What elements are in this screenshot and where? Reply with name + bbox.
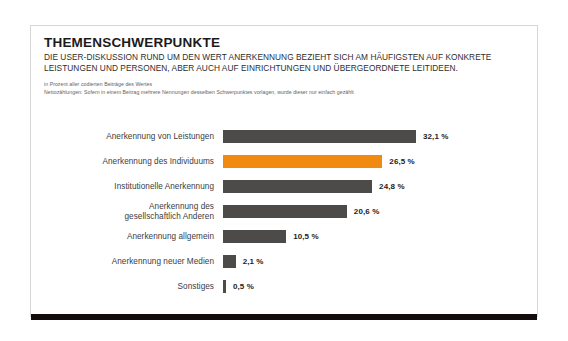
chart-row-label-line-2: gesellschaftlich Anderen [31,212,214,222]
page-root: THEMENSCHWERPUNKTE DIE USER-DISKUSSION R… [0,0,568,341]
note-line-1: in Prozent aller codierten Beiträge des … [44,80,528,88]
chart-bar-value: 24,8 % [379,182,405,191]
chart-bar[interactable] [223,280,226,293]
chart-bar-area: 20,6 % [223,199,537,224]
chart-row: Sonstiges0,5 % [31,274,537,299]
subtitle-line-2: LEISTUNGEN UND PERSONEN, ABER AUCH AUF E… [44,63,524,74]
chart-row-label-line-1: Anerkennung neuer Medien [112,257,214,266]
subtitle-line-1: DIE USER-DISKUSSION RUND UM DEN WERT ANE… [44,52,524,63]
chart-bar-value: 26,5 % [389,157,415,166]
card-header: THEMENSCHWERPUNKTE DIE USER-DISKUSSION R… [44,35,528,96]
chart-note: in Prozent aller codierten Beiträge des … [44,80,528,96]
chart-row-label: Anerkennung von Leistungen [31,132,223,142]
chart-bar[interactable] [223,205,347,218]
chart-row-label-line-1: Institutionelle Anerkennung [114,182,214,191]
card-footer-bar [31,314,537,320]
chart-bar-value: 10,5 % [293,232,319,241]
chart-row-label-line-1: Anerkennung des [149,202,214,211]
chart-row-label: Institutionelle Anerkennung [31,182,223,192]
chart-bar-highlighted[interactable] [223,155,382,168]
chart-bar-area: 32,1 % [223,124,537,149]
chart-card: THEMENSCHWERPUNKTE DIE USER-DISKUSSION R… [30,25,538,317]
chart-row: Anerkennung des Individuums26,5 % [31,149,537,174]
chart-bar-area: 10,5 % [223,224,537,249]
chart-bar[interactable] [223,230,286,243]
chart-row-label: Anerkennung desgesellschaftlich Anderen [31,202,223,222]
chart-row-label: Anerkennung des Individuums [31,157,223,167]
chart-bar[interactable] [223,130,416,143]
chart-row-label-line-1: Anerkennung des Individuums [103,157,215,166]
chart-row-label-line-1: Sonstiges [178,282,214,291]
chart-bar-value: 32,1 % [423,132,449,141]
chart-row: Anerkennung neuer Medien2,1 % [31,249,537,274]
chart-row-label: Anerkennung neuer Medien [31,257,223,267]
chart-bar-area: 0,5 % [223,274,537,299]
chart-bar[interactable] [223,255,236,268]
page-title: THEMENSCHWERPUNKTE [44,35,528,50]
note-line-2: Nettozählungen: Sofern in einem Beitrag … [44,88,528,96]
chart-bar-area: 26,5 % [223,149,537,174]
chart-row: Anerkennung von Leistungen32,1 % [31,124,537,149]
chart-row: Institutionelle Anerkennung24,8 % [31,174,537,199]
chart-bar-value: 20,6 % [354,207,380,216]
chart-row-label: Sonstiges [31,282,223,292]
chart-bar[interactable] [223,180,372,193]
chart-row-label-line-1: Anerkennung von Leistungen [106,132,214,141]
chart-bar-value: 0,5 % [233,282,254,291]
chart-row: Anerkennung desgesellschaftlich Anderen2… [31,199,537,224]
bar-chart: Anerkennung von Leistungen32,1 %Anerkenn… [31,124,537,299]
chart-bar-area: 2,1 % [223,249,537,274]
chart-row-label: Anerkennung allgemein [31,232,223,242]
chart-bar-area: 24,8 % [223,174,537,199]
chart-row: Anerkennung allgemein10,5 % [31,224,537,249]
chart-bar-value: 2,1 % [243,257,264,266]
chart-row-label-line-1: Anerkennung allgemein [127,232,214,241]
